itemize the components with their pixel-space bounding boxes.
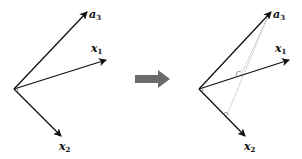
- label-x1-right: x1: [274, 42, 287, 56]
- diagram-canvas: a3 x1 x2 a3 x1 x2: [0, 0, 302, 159]
- left-panel: a3 x1 x2: [14, 8, 106, 154]
- right-arrow-icon: [135, 70, 170, 88]
- vector-x2-left: [14, 89, 61, 136]
- label-x1-left: x1: [90, 42, 103, 56]
- label-a3-left: a3: [89, 8, 101, 22]
- right-panel: a3 x1 x2: [199, 8, 289, 154]
- vector-x2-right: [199, 89, 245, 136]
- label-x2-left: x2: [58, 140, 71, 154]
- label-x2-right: x2: [243, 140, 256, 154]
- projection-a3-onto-x2: [226, 14, 269, 117]
- label-a3-right: a3: [273, 8, 285, 22]
